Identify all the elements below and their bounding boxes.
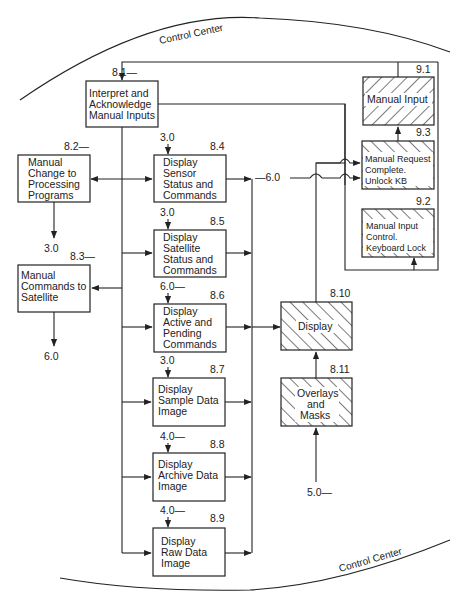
node-label-line: Masks <box>300 409 330 421</box>
flow-8-10-to-9 <box>316 163 345 302</box>
node-label-line: Keyboard Lock <box>366 243 427 253</box>
control-center-label-bottom: Control Center <box>338 545 404 574</box>
node-id: 8.7 <box>210 363 225 375</box>
connector-6-0: 6.0 <box>44 350 59 362</box>
node-8-8: 4.0— 8.8 Display Archive Data Image <box>153 430 225 501</box>
node-id: 8.11 <box>330 363 350 375</box>
connector-3-0: 3.0 <box>44 242 59 254</box>
node-8-1: 8.1— Interpret and Acknowledge Manual In… <box>86 66 158 127</box>
node-id: 8.6 <box>210 289 225 301</box>
node-id: 8.4 <box>210 140 225 152</box>
node-id: 9.3 <box>416 126 431 138</box>
node-label-line: Image <box>161 557 190 569</box>
node-8-6: 6.0— 8.6 Display Active and Pending Comm… <box>154 280 226 352</box>
node-id: 8.3— <box>70 250 96 262</box>
node-id: 8.10 <box>330 287 351 299</box>
node-label-line: Satellite <box>21 291 59 303</box>
connector-to-9-3: —6.0 <box>255 171 280 183</box>
node-label-line: Manual Inputs <box>89 109 155 121</box>
node-label-line: Manual Input <box>367 93 428 105</box>
node-id: 8.9 <box>210 512 225 524</box>
node-label-line: Complete. <box>365 165 406 175</box>
node-input-label: 3.0 <box>160 131 175 143</box>
node-input-label: 6.0— <box>160 280 186 292</box>
node-8-11: 8.11 Overlays and Masks 5.0— <box>281 363 352 498</box>
node-label-line: Image <box>158 480 187 492</box>
node-id: 8.2— <box>64 140 90 152</box>
node-label-line: Manual Request <box>365 154 431 164</box>
node-input-label: 5.0— <box>307 486 333 498</box>
flow-8-10-to-9-3 <box>316 159 360 163</box>
node-8-2: 8.2— Manual Change to Processing Program… <box>18 140 90 202</box>
node-id: 8.1— <box>112 66 138 78</box>
node-9-2: 9.2 Manual Input Control. Keyboard Lock <box>362 195 434 257</box>
node-label-line: Display <box>298 320 333 332</box>
data-flow-diagram: Control Center Control Center 8.1— Inter… <box>0 0 465 602</box>
node-input-label: 4.0— <box>160 430 186 442</box>
node-label-line: Programs <box>28 189 74 201</box>
node-input-label: 3.0 <box>160 354 175 366</box>
node-label-line: Manual Input <box>366 221 419 231</box>
node-label-line: Commands <box>163 189 217 201</box>
node-input-label: 3.0 <box>160 206 175 218</box>
node-8-4: 3.0 8.4 Display Sensor Status and Comman… <box>154 131 226 202</box>
node-id: 9.1 <box>416 63 431 75</box>
node-label-line: Unlock KB <box>365 176 407 186</box>
node-8-3: 8.3— Manual Commands to Satellite <box>18 250 96 312</box>
control-center-label-top: Control Center <box>158 22 225 46</box>
node-label-line: Commands <box>163 264 217 276</box>
node-id: 8.8 <box>210 438 225 450</box>
node-input-label: 4.0— <box>160 504 186 516</box>
node-id: 8.5 <box>210 215 225 227</box>
node-id: 9.2 <box>416 195 431 207</box>
flow-6-0-to-9-3 <box>290 174 360 178</box>
node-8-7: 3.0 8.7 Display Sample Data Image <box>153 354 225 426</box>
node-label-line: Control. <box>366 232 398 242</box>
node-label-line: Image <box>158 405 187 417</box>
node-8-5: 3.0 8.5 Display Satellite Status and Com… <box>154 206 226 277</box>
node-label-line: Commands <box>163 338 217 350</box>
node-8-9: 4.0— 8.9 Display Raw Data Image <box>153 504 225 576</box>
